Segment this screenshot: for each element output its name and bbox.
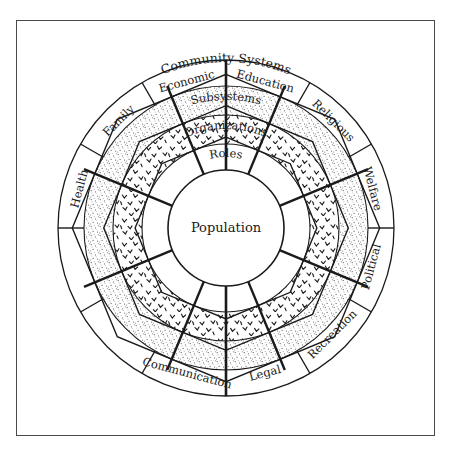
community-systems-wheel: Community Systems Subsystems Organizatio… [0, 0, 452, 454]
figure-page: Community Systems Subsystems Organizatio… [0, 0, 452, 454]
population-label: Population [191, 220, 262, 235]
roles-label: Roles [208, 146, 244, 162]
